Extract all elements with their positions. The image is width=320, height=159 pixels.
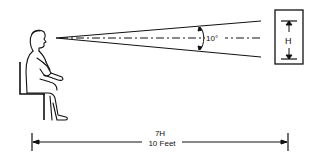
arrow-left-icon [33, 140, 39, 144]
distance-value-label: 10 Feet [148, 139, 176, 148]
distance-ratio-label: 7H [155, 129, 165, 138]
viewing-cone [56, 21, 262, 57]
angle-label: 10° [206, 34, 218, 43]
seated-viewer-figure [26, 30, 67, 120]
viewing-diagram: 10° H 7H 10 Feet [0, 0, 320, 159]
screen-height-label: H [285, 36, 292, 46]
arrow-right-icon [281, 140, 287, 144]
